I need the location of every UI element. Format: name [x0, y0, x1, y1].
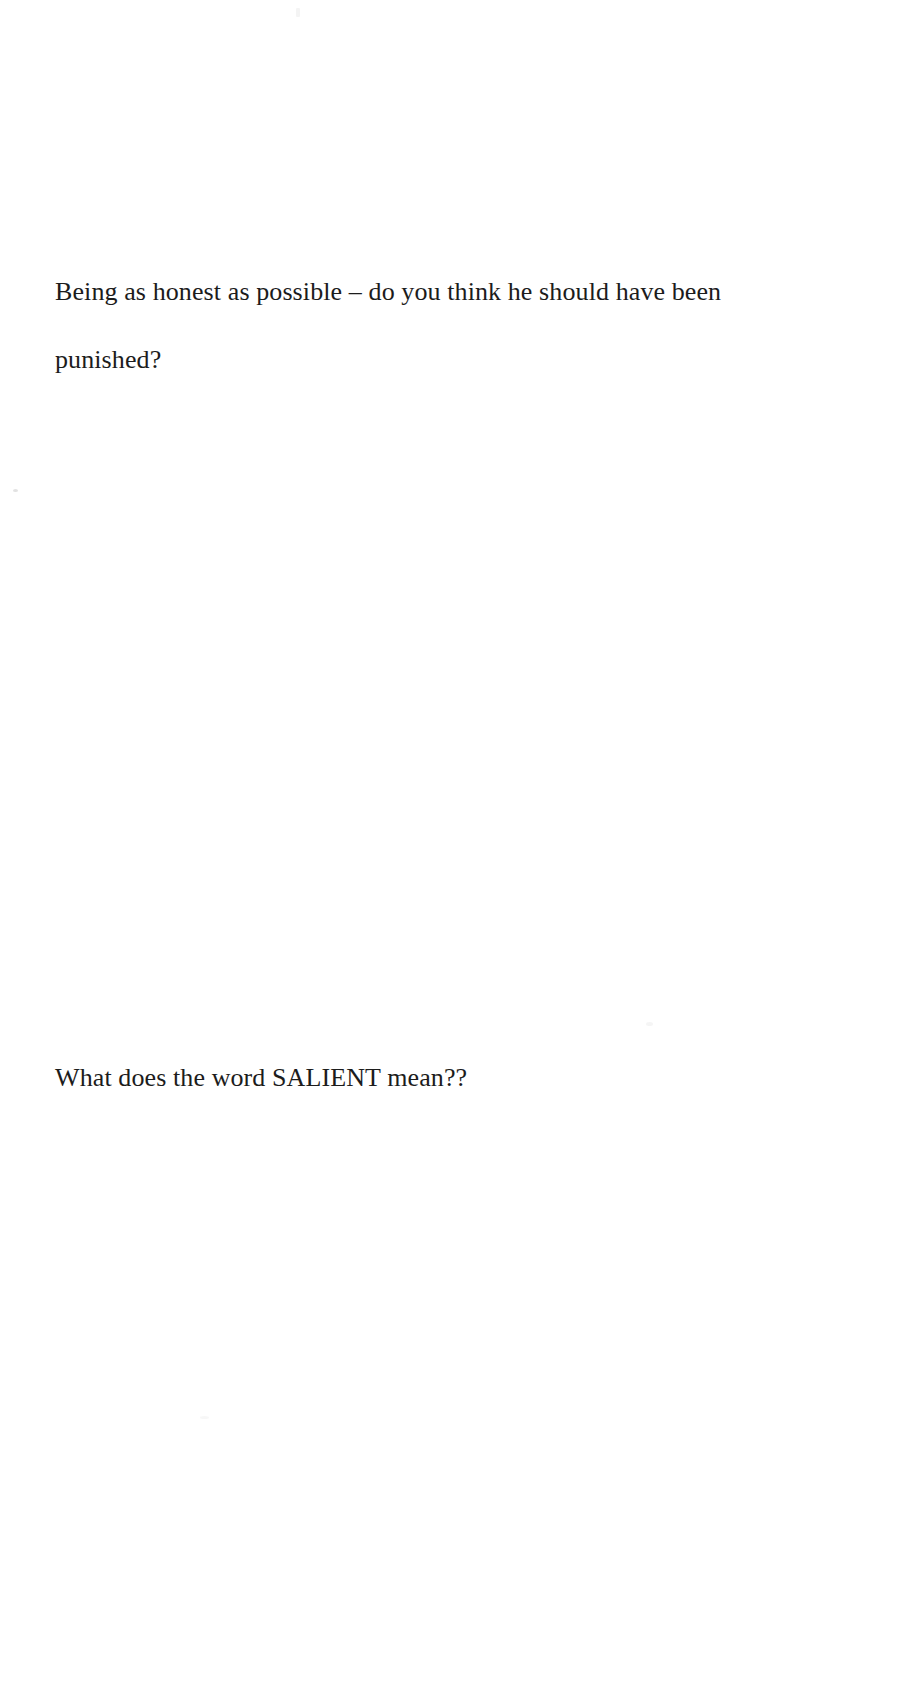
scan-artifact-speck-mid	[646, 1022, 653, 1026]
scan-artifact-speck-low	[200, 1416, 209, 1419]
question-text-honest-punished: Being as honest as possible – do you thi…	[55, 258, 797, 394]
scan-artifact-speck-left-margin	[13, 489, 18, 492]
scan-artifact-speck-top	[296, 8, 300, 17]
scanned-document-page: Being as honest as possible – do you thi…	[0, 0, 912, 1701]
question-text-salient-meaning: What does the word SALIENT mean??	[55, 1044, 797, 1112]
